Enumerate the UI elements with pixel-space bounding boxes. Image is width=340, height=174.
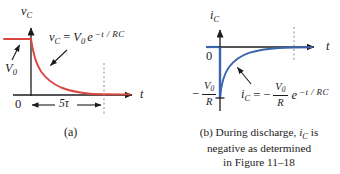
voltage-origin-label: 0 <box>15 98 21 111</box>
five-tau-label: 5τ <box>59 98 69 110</box>
v0-label: V0 <box>5 62 17 76</box>
voltage-y-axis-label: vC <box>21 5 32 19</box>
v0-pointer-arrow <box>12 45 20 60</box>
figure-capacitor-discharge: vC t V0 vC=V0e−t / RC 0 5τ (a) iC t 0 −V… <box>0 0 340 174</box>
panel-a-caption: (a) <box>64 126 77 138</box>
current-equation: iC=−V0Re−t / RC <box>241 82 332 108</box>
voltage-x-axis-label: t <box>140 88 143 101</box>
current-y-axis-label: iC <box>210 9 219 23</box>
current-x-axis-label: t <box>326 40 329 53</box>
voltage-equation: vC=V0e−t / RC <box>49 30 125 45</box>
current-origin-label: 0 <box>206 50 212 63</box>
voltage-equation-pointer-arrow <box>51 50 68 66</box>
panel-b-caption-line3: in Figure 11–18 <box>178 155 340 169</box>
voltage-decay-curve <box>4 39 130 94</box>
panel-b-caption-line2: negative as determined <box>178 141 340 155</box>
minus-v0-over-r-label: −V0R <box>192 81 217 107</box>
panel-b-caption-line1: (b) During discharge, iC is <box>178 125 340 141</box>
panel-b-caption: (b) During discharge, iC is negative as … <box>178 125 340 169</box>
